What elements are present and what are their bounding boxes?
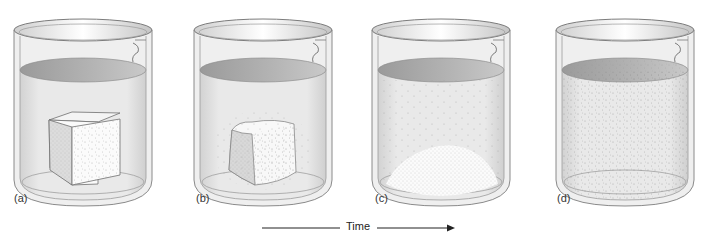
panel-label-d: (d) <box>557 192 570 204</box>
beaker-panel-b <box>180 0 360 215</box>
beaker-panel-c <box>358 0 538 215</box>
dissolving-cube <box>213 110 313 190</box>
time-axis-label: Time <box>343 220 373 232</box>
panel-label-a: (a) <box>14 192 27 204</box>
beaker-illustration <box>542 0 702 215</box>
beaker-illustration <box>180 0 360 215</box>
panel-label-c: (c) <box>375 192 388 204</box>
time-arrow: Time <box>255 220 465 236</box>
beaker-panel-d <box>542 0 702 215</box>
beaker-panel-a <box>0 0 180 215</box>
dissolved-solution <box>563 59 687 200</box>
panel-label-b: (b) <box>196 192 209 204</box>
sugar-cube <box>49 112 120 185</box>
beaker-illustration <box>0 0 180 215</box>
beaker-illustration <box>358 0 538 215</box>
